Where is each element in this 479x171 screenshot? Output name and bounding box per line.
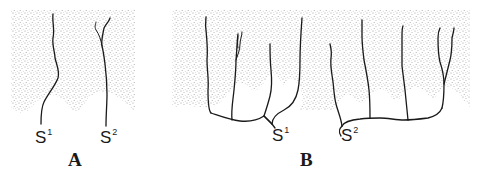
source-superscript: 1 [284, 125, 289, 135]
panel-b-stipple-region [172, 9, 470, 110]
panel-a-label: A [68, 150, 82, 169]
panel-a-source-s2-label: S2 [100, 128, 117, 146]
panel-a-source-s1-label: S1 [35, 128, 52, 146]
source-name: S [35, 128, 46, 147]
source-name: S [272, 126, 283, 145]
source-superscript: 2 [353, 125, 358, 135]
source-superscript: 2 [112, 127, 117, 137]
panel-b [172, 9, 470, 136]
source-superscript: 1 [47, 127, 52, 137]
panel-b-label: B [300, 150, 313, 169]
panel-b-source-s1-label: S1 [272, 126, 289, 144]
diagram-figure [0, 0, 479, 171]
source-name: S [341, 126, 352, 145]
panel-a-stipple-region [11, 9, 135, 113]
source-name: S [100, 128, 111, 147]
panel-a [11, 9, 135, 126]
panel-b-source-s2-label: S2 [341, 126, 358, 144]
